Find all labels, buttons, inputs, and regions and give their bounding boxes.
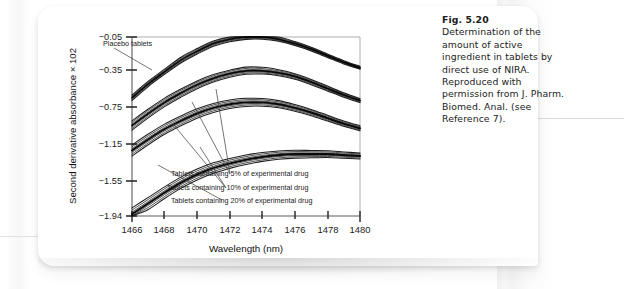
x-tick-label: 1476 <box>285 224 306 235</box>
figure-number: Fig. 5.20 <box>442 14 566 26</box>
y-tick-label: −0.35 <box>99 65 122 75</box>
y-tick-label: −1.94 <box>99 211 122 221</box>
annotation-placebo: Placebo tablets <box>103 39 153 48</box>
spectra-chart: −0.05 −0.35 −0.75 −1.15 −1.55 −1.94 1466… <box>40 4 420 262</box>
annotation-drug-10: Tablets containing 10% of experimental d… <box>167 183 308 192</box>
figure-caption-text: Determination of the amount of active in… <box>442 26 566 125</box>
y-tick-label: −0.75 <box>99 102 122 112</box>
figure-plot-area: −0.05 −0.35 −0.75 −1.15 −1.55 −1.94 1466… <box>40 4 420 262</box>
x-tick-label: 1466 <box>122 224 143 235</box>
spectrum-trace <box>132 106 360 156</box>
x-tick-label: 1474 <box>252 224 273 235</box>
x-tick-label: 1468 <box>154 224 175 235</box>
y-tick-label: −1.55 <box>99 176 122 186</box>
x-tick-label: 1472 <box>220 224 241 235</box>
y-axis-tick-labels: −0.05 −0.35 −0.75 −1.15 −1.55 −1.94 <box>99 32 122 221</box>
figure-caption: Fig. 5.20 Determination of the amount of… <box>442 14 566 126</box>
annotation-drug-5: Tablets containing 5% of experimental dr… <box>171 169 308 178</box>
spectrum-trace <box>132 105 360 154</box>
x-tick-label: 1470 <box>187 224 208 235</box>
y-axis-title: Second derivative absorbance × 102 <box>67 48 78 204</box>
x-tick-label: 1478 <box>318 224 339 235</box>
x-axis-title: Wavelength (nm) <box>209 243 283 254</box>
annotation-drug-20: Tablets containing 20% of experimental d… <box>171 196 312 205</box>
x-axis-tick-labels: 1466 1468 1470 1472 1474 1476 1478 1480 <box>122 224 371 235</box>
x-tick-label: 1480 <box>350 224 371 235</box>
spectrum-trace <box>132 67 360 121</box>
y-tick-label: −1.15 <box>99 139 122 149</box>
page-rule-left <box>0 236 40 237</box>
